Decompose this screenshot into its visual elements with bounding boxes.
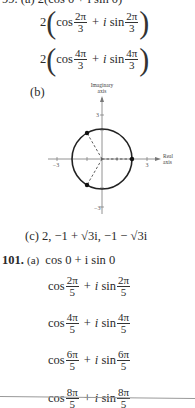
root-point: [85, 131, 89, 135]
y-axis-arrow-icon: [100, 96, 104, 102]
fraction: 4π5: [66, 312, 79, 335]
sin-label: sin: [101, 353, 116, 368]
x-tick-pos: 3: [146, 162, 149, 168]
root-101-3: cos 6π5 + i sin 6π5: [48, 345, 131, 375]
cos-label: cos: [48, 279, 65, 294]
part-a-label: (a): [27, 254, 39, 266]
imaginary-axis-label-2: axis: [98, 88, 107, 94]
imag-unit: i: [95, 316, 98, 331]
plus-sign: +: [84, 353, 91, 368]
x-axis-arrow-icon: [155, 157, 161, 161]
sin-label: sin: [101, 279, 116, 294]
part-c: (c) 2, −1 + √3i, −1 − √3i: [25, 229, 147, 243]
root-101-2: cos 4π5 + i sin 4π5: [48, 308, 131, 338]
plus-sign: +: [84, 316, 91, 331]
part-c-label: (c): [25, 229, 39, 243]
plus-sign: +: [84, 279, 91, 294]
cos-label: cos: [48, 353, 65, 368]
sin-label: sin: [101, 316, 116, 331]
part-c-answer: 2, −1 + √3i, −1 − √3i: [42, 229, 147, 243]
root-101-1: cos 2π5 + i sin 2π5: [48, 271, 131, 301]
fraction: 2π5: [117, 275, 130, 298]
root-point: [130, 157, 134, 161]
fraction: 4π5: [117, 312, 130, 335]
y-tick-pos: 3: [96, 112, 99, 118]
x-tick-neg: −3: [53, 162, 59, 168]
imag-unit: i: [95, 353, 98, 368]
cos-label: cos: [48, 391, 65, 406]
real-axis-label-2: axis: [163, 159, 172, 165]
root-point: [85, 183, 89, 187]
problem-101-header: 101. (a) cos 0 + i sin 0: [2, 253, 115, 267]
fraction: 6π5: [66, 349, 79, 372]
root-101-4: cos 8π5 + i sin 8π5: [48, 383, 131, 408]
cos-label: cos: [48, 316, 65, 331]
plus-sign: +: [84, 391, 91, 406]
fraction: 2π5: [66, 275, 79, 298]
root-expression-0: cos 0 + i sin 0: [45, 253, 115, 267]
y-tick-neg: −3: [94, 205, 100, 211]
imag-unit: i: [95, 279, 98, 294]
complex-plane-figure: Imaginary axis 3 −3 3 −3 Real axis: [0, 0, 195, 230]
fraction: 6π5: [117, 349, 130, 372]
problem-number: 101.: [2, 253, 24, 267]
